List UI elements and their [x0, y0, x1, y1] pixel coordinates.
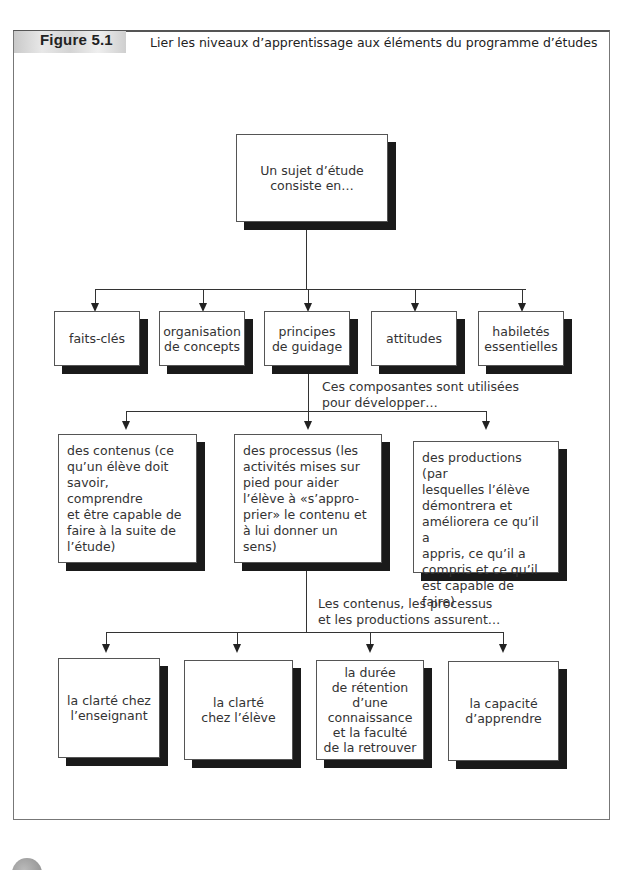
component-habiletes-essentielles: habiletés essentielles: [478, 311, 564, 366]
development-productions: des productions (par lesquelles l’élève …: [413, 441, 559, 573]
connector-line: [522, 289, 523, 303]
connector-line: [308, 374, 309, 422]
outcome-clarte-enseignant: la clarté chez l’enseignant: [58, 658, 160, 758]
figure-label: Figure 5.1: [40, 31, 113, 48]
connector-line: [95, 289, 96, 303]
connector-line: [306, 571, 307, 633]
component-organisation-concepts: organisation de concepts: [159, 311, 245, 366]
development-processus: des processus (les activités mises sur p…: [234, 434, 382, 563]
root-box-label: Un sujet d’étude consiste en…: [260, 163, 364, 193]
connector-line: [415, 289, 416, 303]
component-attitudes: attitudes: [371, 311, 457, 366]
connector-line: [95, 289, 526, 290]
arrow-down-icon: [102, 644, 110, 653]
connector-note-2: Les contenus, les processus et les produ…: [318, 596, 500, 628]
connector-line: [126, 411, 127, 421]
arrow-down-icon: [122, 421, 130, 430]
arrow-down-icon: [499, 644, 507, 653]
development-contenus: des contenus (ce qu’un élève doit savoir…: [58, 434, 197, 563]
arrow-down-icon: [366, 644, 374, 653]
connector-line: [308, 289, 309, 303]
arrow-down-icon: [233, 644, 241, 653]
arrow-down-icon: [482, 421, 490, 430]
arrow-down-icon: [304, 421, 312, 430]
connector-line: [486, 411, 487, 421]
component-principes-guidage: principes de guidage: [264, 311, 350, 366]
connector-note-1: Ces composantes sont utilisées pour déve…: [322, 379, 519, 411]
component-faits-cles: faits-clés: [54, 311, 140, 366]
page-corner-decoration: [12, 858, 42, 870]
connector-line: [203, 289, 204, 303]
connector-line: [106, 632, 504, 633]
connector-line: [306, 230, 307, 290]
connector-line: [126, 411, 486, 412]
outcome-capacite-apprendre: la capacité d’apprendre: [448, 661, 559, 761]
outcome-duree-retention: la durée de rétention d’une connaissance…: [316, 660, 424, 760]
outcome-clarte-eleve: la clarté chez l’élève: [184, 660, 293, 760]
root-box: Un sujet d’étude consiste en…: [236, 134, 388, 222]
figure-title: Lier les niveaux d’apprentissage aux élé…: [150, 35, 597, 50]
